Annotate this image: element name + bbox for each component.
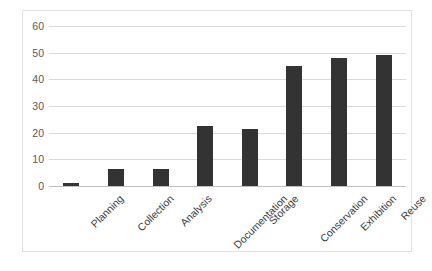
x-axis-tick-label: Reuse xyxy=(399,193,428,222)
x-axis-tick-label: Analysis xyxy=(178,193,213,228)
bar xyxy=(63,183,79,186)
bar xyxy=(108,169,124,186)
y-axis-tick-label: 60 xyxy=(32,21,44,32)
bar xyxy=(331,58,347,186)
y-axis-tick-label: 10 xyxy=(32,154,44,165)
gridline xyxy=(49,186,406,187)
chart-frame: 0102030405060 PlanningCollectionAnalysis… xyxy=(22,10,412,252)
y-axis-tick-label: 50 xyxy=(32,47,44,58)
bar xyxy=(286,66,302,186)
y-axis-tick-label: 40 xyxy=(32,74,44,85)
x-axis-tick-label: Planning xyxy=(89,193,125,229)
x-axis-tick-label: Documentation xyxy=(232,193,289,250)
y-axis-tick-label: 30 xyxy=(32,101,44,112)
x-axis-tick-label: Collection xyxy=(135,193,175,233)
bar xyxy=(242,129,258,186)
y-axis-tick-label: 0 xyxy=(38,181,44,192)
bar xyxy=(197,126,213,186)
y-axis-tick-label: 20 xyxy=(32,127,44,138)
plot-area: 0102030405060 PlanningCollectionAnalysis… xyxy=(49,26,406,186)
bar xyxy=(376,55,392,186)
bar-series xyxy=(49,26,406,186)
bar xyxy=(153,169,169,186)
